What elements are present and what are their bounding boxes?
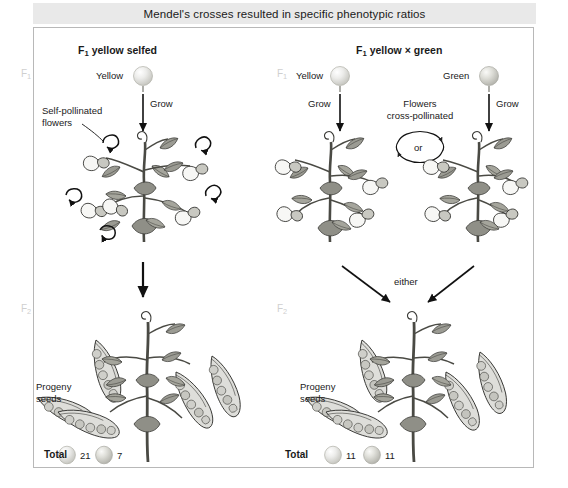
- right-progeny-label-line1: Progeny: [300, 381, 335, 392]
- figure-panel: [33, 27, 534, 468]
- right-generation-f1-label: F1: [277, 68, 287, 81]
- right-panel-heading: F1 yellow × green: [356, 44, 442, 58]
- right-grow-label-left: Grow: [308, 98, 331, 109]
- or-label: or: [414, 142, 422, 153]
- right-total-count-yellow: 11: [346, 450, 356, 461]
- left-panel-heading: F1 yellow selfed: [78, 44, 157, 58]
- self-pollinated-label-line2: flowers: [42, 117, 72, 128]
- figure-title: Mendel's crosses resulted in specific ph…: [144, 8, 426, 20]
- right-progeny-label-line2: seeds: [300, 393, 325, 404]
- right-total-count-green: 11: [385, 450, 395, 461]
- figure-root: Mendel's crosses resulted in specific ph…: [0, 0, 568, 488]
- left-progeny-label-line2: seeds: [36, 393, 61, 404]
- right-grow-label-right: Grow: [496, 98, 519, 109]
- left-progeny-label-line1: Progeny: [36, 381, 71, 392]
- left-total-count-yellow: 21: [80, 450, 91, 461]
- left-parent-seed-label: Yellow: [96, 70, 123, 81]
- either-label: either: [394, 276, 418, 287]
- right-generation-f2-label: F2: [277, 303, 287, 316]
- self-pollinated-label-line1: Self-pollinated: [42, 105, 102, 116]
- right-parent-seed-label-green: Green: [443, 70, 469, 81]
- left-total-label: Total: [44, 449, 67, 460]
- right-total-label: Total: [285, 449, 308, 460]
- figure-title-bar: Mendel's crosses resulted in specific ph…: [33, 3, 536, 24]
- left-generation-f1-label: F1: [21, 68, 31, 81]
- right-parent-seed-label-yellow: Yellow: [296, 70, 323, 81]
- left-total-count-green: 7: [117, 450, 122, 461]
- left-grow-label: Grow: [150, 98, 173, 109]
- cross-pollinated-label-line2: cross-pollinated: [372, 110, 468, 121]
- left-generation-f2-label: F2: [21, 303, 31, 316]
- cross-pollinated-label-line1: Flowers: [380, 98, 460, 109]
